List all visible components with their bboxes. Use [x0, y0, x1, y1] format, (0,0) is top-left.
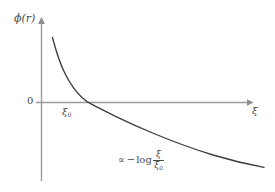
proportional-symbol: ∝ — [118, 155, 125, 165]
denominator-subscript: 0 — [159, 165, 163, 171]
fraction-denominator: ξ0 — [153, 161, 164, 171]
figure-container: ϕ(r) 0 ξ0 ξ ∝ − log ξ ξ0 — [0, 0, 275, 192]
minus-sign: − — [127, 155, 135, 165]
log-operator: log — [136, 155, 152, 165]
x-axis-label: ξ — [252, 106, 258, 116]
fraction-numerator: ξ — [155, 150, 162, 160]
origin-label: 0 — [27, 96, 33, 106]
zero-crossing-subscript: 0 — [68, 111, 72, 118]
y-axis-label: ϕ(r) — [14, 13, 35, 24]
zero-crossing-label: ξ0 — [62, 107, 71, 117]
curve-annotation: ∝ − log ξ ξ0 — [118, 150, 164, 171]
log-argument-fraction: ξ ξ0 — [153, 150, 164, 171]
